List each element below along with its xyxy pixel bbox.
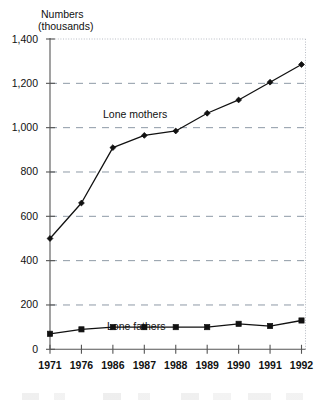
- series-annotation-lone-mothers: Lone mothers: [103, 108, 167, 120]
- x-tick-label: 1988: [159, 359, 193, 371]
- x-tick-label: 1976: [64, 359, 98, 371]
- page-footer-partial-text: [22, 393, 312, 400]
- y-tick-label: 1,200: [0, 77, 38, 89]
- x-tick-label: 1990: [222, 359, 256, 371]
- y-tick-label: 200: [0, 298, 38, 310]
- x-tick-label: 1992: [285, 359, 319, 371]
- y-tick-label: 1,000: [0, 121, 38, 133]
- series-annotation-lone-fathers: Lone fathers: [107, 320, 165, 332]
- x-tick-label: 1986: [96, 359, 130, 371]
- x-tick-label: 1989: [190, 359, 224, 371]
- series-lone-mothers: [47, 62, 304, 242]
- y-tick-label: 1,400: [0, 33, 38, 45]
- x-tick-label: 1987: [127, 359, 161, 371]
- line-chart-figure: Numbers (thousands) 02004006008001,0001,…: [0, 0, 333, 402]
- x-tick-label: 1971: [33, 359, 67, 371]
- series-lone-fathers: [47, 318, 304, 336]
- x-tick-label: 1991: [253, 359, 287, 371]
- plot-area: [0, 0, 333, 402]
- y-tick-label: 0: [0, 343, 38, 355]
- y-tick-label: 800: [0, 165, 38, 177]
- y-tick-label: 400: [0, 254, 38, 266]
- y-tick-label: 600: [0, 210, 38, 222]
